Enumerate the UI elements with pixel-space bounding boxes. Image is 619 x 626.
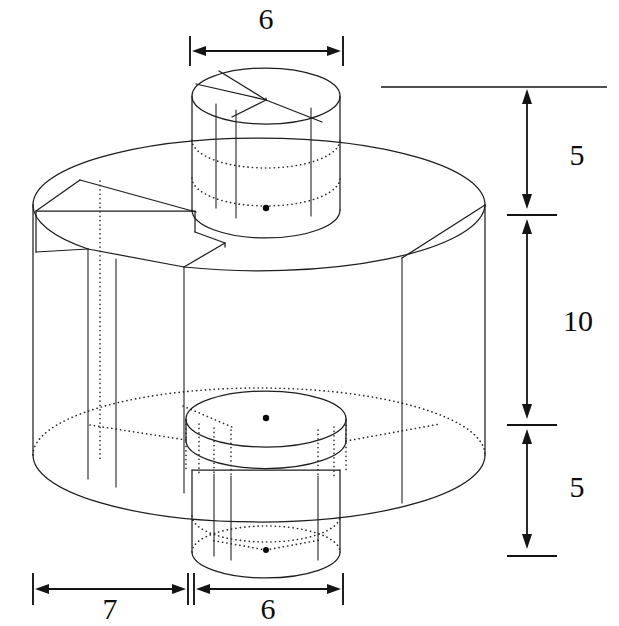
dim-right-lower-label: 5: [570, 470, 585, 503]
dim-bottom-7-arrow-right: [172, 584, 186, 594]
dim-bottom-6-arrow-right: [327, 584, 341, 594]
inner-bore-disk: [186, 391, 346, 469]
dimension-bottom-width: 6: [194, 573, 343, 625]
main-top-right-corner-edge: [402, 205, 485, 258]
dim-right-upper-label: 5: [570, 138, 585, 171]
wedge-floor-inner-edge: [195, 232, 225, 243]
upper-boss-center-mark: [263, 205, 269, 211]
dim-bottom-6-label: 6: [261, 592, 276, 625]
main-top-front-rim-right: [184, 205, 485, 271]
dim-top-label: 6: [259, 2, 274, 35]
upper-boss-bottom-front-arc: [192, 210, 340, 238]
isometric-part-figure: 6 5 10 5: [0, 0, 619, 626]
main-body-cylinder: [33, 138, 485, 522]
main-body-wedge-cutout: [36, 180, 225, 267]
upper-boss-wedge-radial-4: [266, 100, 322, 122]
dim-right-middle-arrow-top: [522, 219, 532, 234]
dimension-height-top: 5: [507, 89, 585, 215]
dim-right-lower-arrow-bottom: [522, 534, 532, 549]
upper-boss-hidden-ellipse-lower: [192, 178, 340, 206]
wedge-floor-front-edge: [88, 249, 184, 267]
upper-boss-wedge-radial-3: [232, 100, 266, 117]
dim-bottom-7-arrow-left: [35, 584, 49, 594]
dim-right-upper-arrow-top: [522, 89, 532, 104]
dim-right-lower-arrow-top: [522, 429, 532, 444]
dimension-height-middle: 10: [507, 219, 593, 425]
upper-boss-wedge-radial-1: [196, 84, 266, 100]
dim-bottom-6-arrow-left: [196, 584, 210, 594]
dim-top-arrow-left: [192, 46, 206, 56]
dim-bottom-7-label: 7: [103, 592, 118, 625]
main-bottom-back-arc-hidden: [33, 388, 485, 455]
wedge-floor-left-edge: [36, 249, 88, 252]
main-bottom-front-arc: [33, 455, 485, 522]
dim-top-arrow-right: [327, 46, 341, 56]
upper-boss-top-ellipse: [192, 68, 340, 124]
dim-right-middle-label: 10: [563, 304, 593, 337]
main-body-vertical-cut-edges: [88, 249, 184, 493]
dimension-bottom-offset: 7: [33, 573, 188, 625]
wedge-floor-right-edge: [184, 243, 225, 267]
lower-boss-cylinder: [192, 470, 340, 578]
upper-boss-hidden-ellipse-upper: [192, 140, 340, 168]
dim-right-upper-arrow-bottom: [522, 194, 532, 209]
wedge-upper-left-edge: [36, 180, 80, 211]
main-top-rear-rim: [33, 138, 485, 205]
lower-boss-hidden-wedge-b: [266, 540, 320, 550]
lower-boss-center-mark: [263, 547, 269, 553]
upper-boss-cylinder: [192, 68, 340, 238]
inner-disk-center-mark: [263, 415, 269, 421]
technical-drawing-canvas: 6 5 10 5: [0, 0, 619, 626]
inner-disk-bottom-arc: [186, 440, 346, 469]
wedge-upper-slope-edge: [80, 180, 196, 212]
dimension-height-bottom: 5: [507, 429, 585, 556]
hidden-line-i: [90, 425, 186, 440]
dimension-top-width: 6: [190, 2, 343, 66]
upper-boss-wedge-radial-2: [219, 71, 266, 100]
dim-right-middle-arrow-bottom: [522, 404, 532, 419]
hidden-line-j: [346, 424, 440, 441]
